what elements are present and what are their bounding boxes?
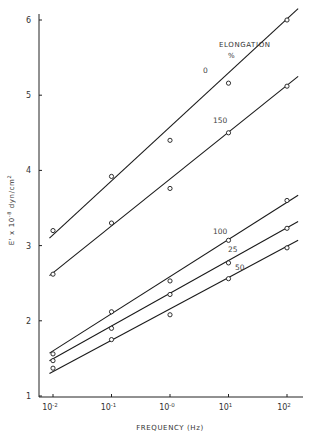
series-label-100: 100	[213, 227, 228, 236]
x-tick-label: 102	[277, 402, 291, 412]
fit-line-50	[49, 240, 298, 373]
fit-line-100	[49, 195, 298, 353]
data-point	[285, 198, 289, 202]
data-point	[168, 292, 172, 296]
data-point	[168, 138, 172, 142]
fit-line-150	[49, 76, 298, 275]
data-point	[168, 279, 172, 283]
data-point	[109, 174, 113, 178]
data-point	[285, 246, 289, 250]
data-point	[51, 228, 55, 232]
y-tick-label: 3	[26, 242, 31, 251]
series-labels: 01501002550	[203, 66, 245, 272]
series-label-0: 0	[203, 66, 208, 75]
data-point	[226, 81, 230, 85]
fit-line-25	[49, 222, 298, 361]
x-axis-title: FREQUENCY (Hz)	[136, 424, 204, 432]
data-point	[168, 313, 172, 317]
y-tick-label: 1	[26, 392, 31, 401]
x-tick-label: 10-1	[101, 402, 117, 412]
data-point	[226, 238, 230, 242]
data-points	[51, 18, 289, 370]
fit-lines	[49, 9, 298, 374]
data-point	[226, 131, 230, 135]
data-point	[226, 261, 230, 265]
legend-unit: %	[228, 52, 235, 60]
data-point	[51, 272, 55, 276]
data-point	[109, 221, 113, 225]
data-point	[109, 338, 113, 342]
data-point	[285, 84, 289, 88]
elongation-modulus-chart: 12345610-210-110-0101102 01501002550 ELO…	[0, 0, 311, 439]
data-point	[226, 277, 230, 281]
data-point	[51, 352, 55, 356]
y-tick-label: 2	[26, 317, 31, 326]
svg-text:E' x 10-8 dyn/cm2: E' x 10-8 dyn/cm2	[6, 175, 16, 246]
x-tick-label: 101	[219, 402, 233, 412]
data-point	[109, 310, 113, 314]
series-label-50: 50	[235, 263, 245, 272]
data-point	[285, 18, 289, 22]
data-point	[51, 359, 55, 363]
x-tick-label: 10-0	[159, 402, 175, 412]
data-point	[285, 226, 289, 230]
ticks: 12345610-210-110-0101102	[26, 16, 291, 412]
y-axis-title: E' x 10-8 dyn/cm2	[6, 175, 16, 246]
series-label-150: 150	[213, 116, 228, 125]
y-tick-label: 4	[26, 166, 31, 175]
legend-title: ELONGATION	[219, 41, 271, 49]
y-tick-label: 5	[26, 91, 31, 100]
axes	[39, 14, 303, 397]
data-point	[109, 326, 113, 330]
data-point	[51, 366, 55, 370]
y-tick-label: 6	[26, 16, 31, 25]
x-tick-label: 10-2	[42, 402, 58, 412]
series-label-25: 25	[228, 245, 238, 254]
data-point	[168, 186, 172, 190]
